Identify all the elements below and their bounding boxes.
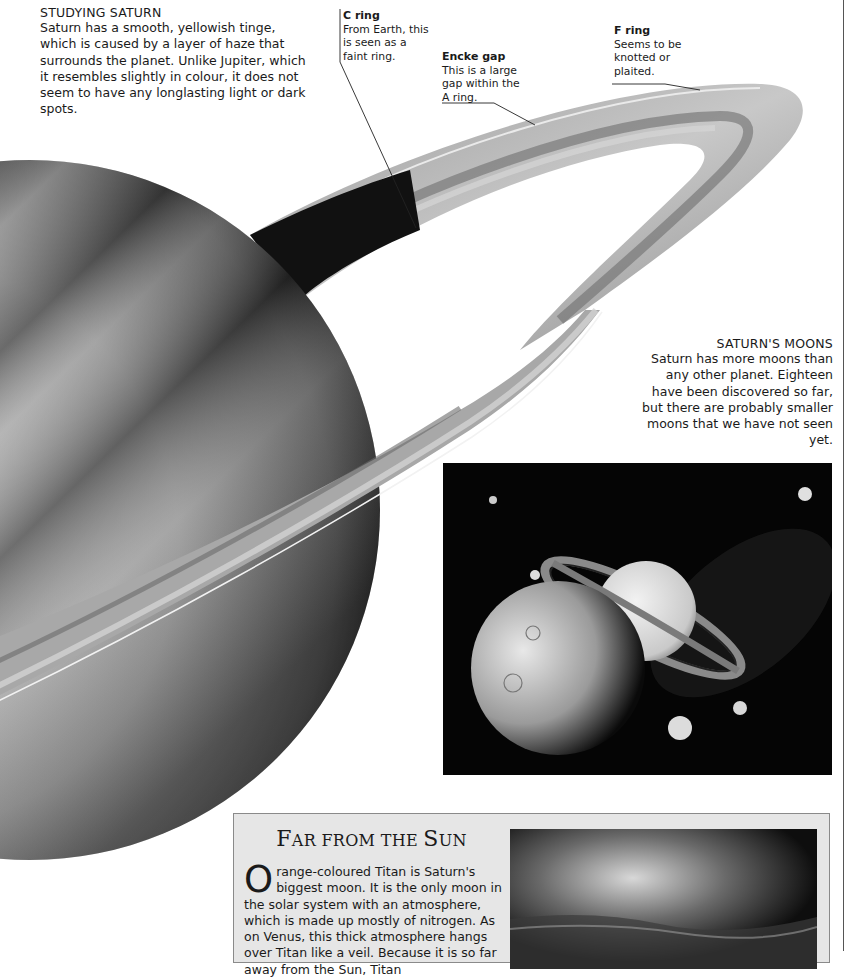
c-ring-title: C ring [343,9,433,23]
f-ring-title: F ring [614,24,694,38]
small-moon [733,701,747,715]
saturns-moons-section: SATURN'S MOONS Saturn has more moons tha… [640,336,833,449]
titan-surface-image [510,829,817,969]
studying-saturn-body: Saturn has a smooth, yellowish tinge, wh… [40,20,310,118]
encke-gap-text: This is a large gap within the A ring. [442,64,522,105]
encke-gap-leader-line [442,103,535,125]
small-moon [798,487,812,501]
f-ring-text: Seems to be knotted or plaited. [614,38,694,79]
far-from-the-sun-panel: FAR FROM THE SUN Orange-coloured Titan i… [233,813,830,963]
panel-body: Orange-coloured Titan is Saturn's bigges… [244,864,509,978]
panel-body-text: range-coloured Titan is Saturn's biggest… [244,864,502,977]
title-part: UN [439,831,467,850]
moons-photo-art [443,463,832,775]
page-edge-line [843,0,844,951]
small-moon [530,570,540,580]
f-ring-label: F ring Seems to be knotted or plaited. [614,24,694,78]
saturn-moons-photo [443,463,832,775]
c-ring-label: C ring From Earth, this is seen as a fai… [343,9,433,63]
encke-gap-title: Encke gap [442,50,522,64]
titan-art [510,829,817,969]
ring-system-back [250,84,803,350]
panel-title: FAR FROM THE SUN [234,826,509,851]
encke-gap-label: Encke gap This is a large gap within the… [442,50,522,104]
small-moon [489,496,497,504]
title-part: AR FROM THE [292,831,423,850]
small-moon [668,716,692,740]
saturns-moons-body: Saturn has more moons than any other pla… [640,351,833,449]
title-initial: S [423,826,438,851]
studying-saturn-heading: STUDYING SATURN [40,5,310,20]
c-ring-text: From Earth, this is seen as a faint ring… [343,23,433,64]
title-initial: F [276,826,292,851]
studying-saturn-section: STUDYING SATURN Saturn has a smooth, yel… [40,5,310,118]
large-moon-dione [471,581,645,755]
drop-cap: O [244,865,273,895]
saturns-moons-heading: SATURN'S MOONS [640,336,833,351]
